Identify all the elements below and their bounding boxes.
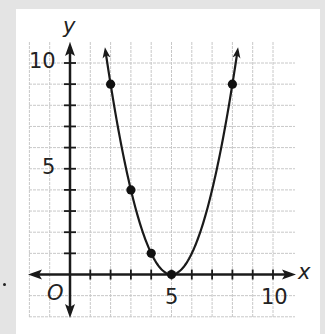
x-axis-label: x xyxy=(298,260,310,284)
data-point xyxy=(106,80,115,89)
data-point xyxy=(167,270,176,279)
axes xyxy=(28,42,296,318)
data-point xyxy=(147,249,156,258)
y-axis-label: y xyxy=(63,14,75,38)
origin-label: O xyxy=(47,281,64,305)
x-tick-label-10: 10 xyxy=(261,285,288,309)
y-tick-label-10: 10 xyxy=(29,49,56,73)
y-tick-label-5: 5 xyxy=(42,155,55,179)
data-point xyxy=(228,80,237,89)
data-point xyxy=(126,185,135,194)
x-tick-label-5: 5 xyxy=(165,285,178,309)
